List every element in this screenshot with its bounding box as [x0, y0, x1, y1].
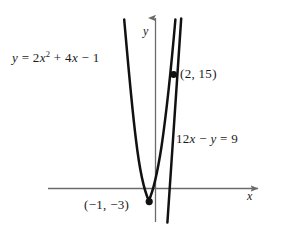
line-eq-rhs: 9: [231, 131, 238, 146]
line-eq-minus: −: [199, 131, 207, 146]
parabola-eq-exponent: 2: [46, 49, 51, 59]
point-marker-vertex: [146, 198, 153, 205]
parabola-eq-plus: +: [54, 50, 62, 65]
line-eq-var2: y: [210, 131, 216, 146]
line-equation-label: 12x − y = 9: [176, 131, 238, 147]
parabola-equation-label: y = 2x2 + 4x − 1: [12, 50, 100, 66]
parabola-eq-var2: x: [72, 50, 78, 65]
parabola-eq-coeff1: 2: [33, 50, 40, 65]
point-marker-intersection: [170, 71, 177, 78]
intersection-point-label: (2, 15): [180, 66, 217, 82]
line-curve: [167, 19, 181, 223]
parabola-curve: [124, 20, 175, 201]
line-eq-equals: =: [220, 131, 228, 146]
y-axis-label: y: [143, 24, 148, 39]
parabola-eq-coeff2: 4: [65, 50, 72, 65]
graph-figure: y = 2x2 + 4x − 1 12x − y = 9 (2, 15) (−1…: [0, 0, 287, 228]
vertex-point-label: (−1, −3): [84, 197, 129, 213]
line-eq-var1: x: [190, 131, 196, 146]
parabola-eq-equals: =: [22, 50, 30, 65]
parabola-eq-lhs: y: [12, 50, 18, 65]
x-axis-label: x: [247, 189, 252, 204]
parabola-eq-minus: −: [82, 50, 90, 65]
line-eq-coeff1: 12: [176, 131, 190, 146]
parabola-eq-const: 1: [93, 50, 100, 65]
